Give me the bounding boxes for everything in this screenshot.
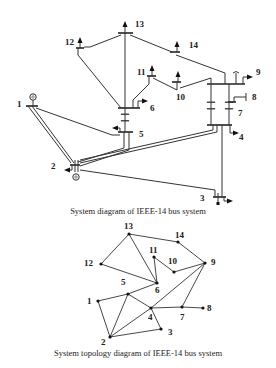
synchronous-condenser-3-icon	[217, 202, 220, 205]
node-label-3: 3	[168, 327, 173, 337]
bus-label-2: 2	[51, 161, 56, 171]
edge-10-11	[154, 257, 174, 272]
node-9	[203, 261, 206, 264]
shunt-capacitor-9-icon	[233, 72, 239, 74]
bus-label-10: 10	[176, 92, 186, 102]
edge-2-5	[110, 294, 128, 337]
node-8	[201, 306, 204, 309]
generator-2-icon	[73, 174, 79, 180]
bus-label-9: 9	[256, 67, 261, 77]
edge-4-9	[151, 263, 205, 308]
bus-label-7: 7	[238, 108, 243, 118]
bus-label-12: 12	[65, 37, 75, 47]
load-arrow-6-icon	[142, 99, 148, 104]
node-label-8: 8	[207, 303, 212, 313]
edge-3-4	[151, 308, 161, 329]
generator-1-icon	[30, 94, 36, 100]
edge-5-6	[128, 283, 157, 294]
transmission-lines	[28, 33, 246, 202]
load-arrow-3-icon	[227, 199, 233, 204]
node-label-14: 14	[175, 230, 185, 240]
topology-diagram-caption: System topology diagram of IEEE-14 bus s…	[0, 348, 276, 358]
node-label-1: 1	[87, 296, 92, 306]
edge-9-10	[174, 263, 205, 272]
bus-label-14: 14	[189, 40, 199, 50]
load-arrow-2-icon	[64, 168, 70, 173]
node-label-7: 7	[180, 312, 185, 322]
node-11	[152, 255, 155, 258]
bus-label-13: 13	[135, 19, 145, 29]
system-diagram: 13 12 14 11 10 9 8 7 6 5 4 1 2 3	[0, 0, 276, 210]
edge-7-9	[182, 263, 205, 307]
node-label-2: 2	[101, 337, 106, 347]
node-label-9: 9	[211, 257, 216, 267]
node-1	[96, 299, 99, 302]
load-arrow-12-icon	[78, 37, 83, 43]
node-label-12: 12	[84, 258, 94, 268]
load-arrow-5-icon	[112, 126, 118, 131]
bus-bars	[26, 33, 245, 197]
bus-label-5: 5	[139, 129, 144, 139]
node-4	[149, 306, 152, 309]
edge-4-5	[128, 294, 151, 308]
bus-label-3: 3	[200, 193, 205, 203]
node-14	[176, 240, 179, 243]
topology-labels: 1 2 3 4 5 6 7 8 9 10 11 12 13 14	[84, 221, 216, 347]
bus-label-8: 8	[252, 92, 257, 102]
node-label-4: 4	[148, 312, 153, 322]
edge-6-13	[129, 234, 157, 283]
node-label-6: 6	[155, 285, 160, 295]
edge-7-8	[182, 307, 203, 308]
node-label-13: 13	[124, 221, 134, 231]
load-arrow-11-icon	[150, 65, 155, 71]
node-10	[172, 270, 175, 273]
edge-4-7	[151, 307, 182, 308]
node-2	[108, 335, 111, 338]
node-3	[159, 327, 162, 330]
edge-6-11	[154, 257, 157, 283]
node-label-5: 5	[121, 277, 126, 287]
node-12	[99, 262, 102, 265]
edge-1-2	[98, 301, 110, 337]
edge-1-5	[98, 294, 128, 301]
bus-labels: 13 12 14 11 10 9 8 7 6 5 4 1 2 3	[17, 19, 261, 203]
node-7	[180, 305, 183, 308]
load-arrow-14-icon	[175, 41, 180, 47]
load-arrow-13-icon	[123, 21, 128, 27]
node-label-11: 11	[149, 245, 158, 255]
topology-edges	[98, 234, 205, 337]
load-arrows	[64, 21, 253, 204]
bus-label-4: 4	[239, 132, 244, 142]
edge-2-4	[110, 308, 151, 337]
edge-6-12	[101, 264, 157, 283]
bus-label-6: 6	[150, 103, 155, 113]
node-5	[126, 292, 129, 295]
bus-label-1: 1	[17, 99, 22, 109]
node-label-10: 10	[168, 256, 178, 266]
load-arrow-10-icon	[176, 71, 181, 77]
edge-12-13	[101, 234, 129, 264]
topology-nodes	[96, 232, 206, 338]
system-diagram-caption: System diagram of IEEE-14 bus system	[0, 206, 276, 216]
edge-2-3	[110, 329, 161, 337]
edge-13-14	[129, 234, 178, 242]
load-arrow-9-icon	[247, 75, 253, 80]
node-13	[127, 232, 130, 235]
edge-9-14	[178, 242, 205, 263]
bus-label-11: 11	[137, 67, 146, 77]
node-6	[155, 281, 158, 284]
